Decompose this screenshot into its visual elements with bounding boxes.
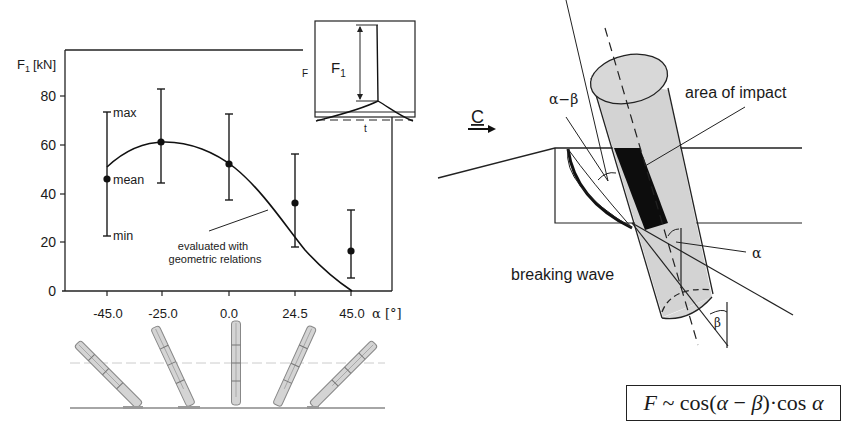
x-axis-title: α [°] [372,306,402,321]
force-formula: F ~ cos( α − β )·cos α [626,385,841,421]
y-axis-title: F1[kN] [17,57,56,74]
impact-diagram: C α−β area of impact breaking wave α β [438,0,802,348]
y-tick-label: 0 [48,283,56,299]
pile-minus-25 [151,325,196,407]
x-tick-label: -45.0 [93,306,123,321]
area-of-impact-label: area of impact [685,84,787,101]
pile-0 [232,321,241,405]
geometric-curve [107,142,352,291]
inset-time-series: F1 F t [302,21,415,134]
pile-sketches [70,321,385,409]
y-ticks [60,96,65,242]
formula-F: F [643,390,656,416]
inclined-cylinder [586,28,713,345]
x-tick-label: 45.0 [339,306,364,321]
breaking-wave-label: breaking wave [511,266,614,283]
annotation-curve-line1: evaluated with [178,240,248,252]
y-tick-label: 40 [40,186,56,202]
x-tick-label: 24.5 [282,306,307,321]
pile-minus-45 [74,340,143,409]
formula-alpha: α [717,390,729,416]
formula-part: )·cos [762,390,811,416]
formula-alpha: α [812,390,824,416]
angle-difference-label: α−β [549,91,578,107]
annotation-curve-line2: geometric relations [169,253,262,265]
pile-24-5 [273,325,317,407]
x-tick-label: 0.0 [220,306,238,321]
y-tick-label: 20 [40,234,56,250]
formula-part: ~ cos( [657,390,717,416]
inset-x-label: t [364,123,367,134]
annotation-max: max [113,106,137,120]
annotation-leader [209,210,268,231]
y-tick-label: 80 [40,88,56,104]
x-tick-label: -25.0 [148,306,178,321]
alpha-label: α [752,245,762,261]
beta-label: β [714,316,721,330]
inset-y-label: F [302,68,308,79]
formula-part: − [728,390,751,416]
y-tick-label: 60 [40,137,56,153]
inset-frame [315,21,415,117]
x-ticks [107,291,351,296]
annotation-mean: mean [113,173,144,187]
formula-beta: β [751,390,762,416]
current-label: C [471,107,484,127]
annotation-min: min [113,229,133,243]
pile-45 [309,340,378,409]
